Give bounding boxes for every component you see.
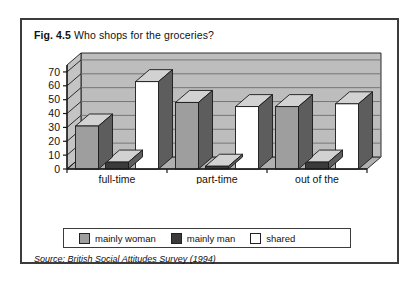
source-label: Source: [34, 254, 65, 264]
legend-label-shared: shared [266, 233, 295, 244]
figure-frame: Fig. 4.5 Who shops for the groceries? 01… [20, 18, 399, 264]
figure-title-text: Who shops for the groceries? [74, 29, 214, 41]
bar-chart: 010203040506070full-timepart-timeout of … [30, 52, 392, 184]
svg-text:part-time: part-time [196, 173, 238, 184]
svg-text:70: 70 [48, 66, 60, 78]
legend-label-mainly-woman: mainly woman [95, 233, 156, 244]
svg-text:50: 50 [48, 93, 60, 105]
legend-item-mainly-man: mainly man [171, 233, 236, 244]
svg-text:out of the: out of the [295, 173, 339, 184]
source-text: British Social Attitudes Survey (1994) [68, 254, 216, 264]
svg-text:full-time: full-time [99, 173, 136, 184]
legend-item-shared: shared [250, 233, 295, 244]
legend-label-mainly-man: mainly man [187, 233, 236, 244]
legend-swatch-mainly-man [171, 233, 182, 244]
legend-item-mainly-woman: mainly woman [79, 233, 156, 244]
svg-text:20: 20 [48, 135, 60, 147]
page-title: Fig. 4.5 Who shops for the groceries? [34, 29, 214, 41]
svg-text:30: 30 [48, 121, 60, 133]
svg-text:40: 40 [48, 107, 60, 119]
svg-text:0: 0 [54, 163, 60, 175]
legend-swatch-shared [250, 233, 261, 244]
chart-svg: 010203040506070full-timepart-timeout of … [30, 52, 392, 184]
source-note: Source: British Social Attitudes Survey … [34, 254, 216, 264]
svg-text:10: 10 [48, 149, 60, 161]
svg-text:60: 60 [48, 79, 60, 91]
legend-swatch-mainly-woman [79, 233, 90, 244]
chart-legend: mainly woman mainly man shared [63, 228, 351, 248]
figure-number: Fig. 4.5 [34, 29, 71, 41]
